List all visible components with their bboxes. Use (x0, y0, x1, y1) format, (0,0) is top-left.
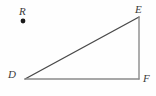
segment-DE-hypotenuse (25, 17, 139, 79)
vertex-label-e: E (135, 4, 142, 15)
vertex-label-f: F (143, 73, 150, 84)
point-label-r: R (19, 6, 26, 17)
point-marker-R (21, 19, 26, 24)
vertex-label-d: D (8, 69, 16, 80)
geometry-figure: R E D F (0, 0, 156, 96)
